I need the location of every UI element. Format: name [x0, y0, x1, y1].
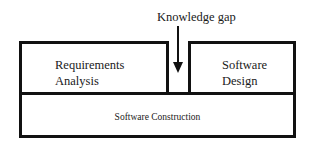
software-design-label: Software Design	[222, 59, 267, 87]
knowledge-gap-label: Knowledge gap	[157, 11, 236, 24]
software-construction-label: Software Construction	[19, 113, 296, 123]
design-line1: Software	[222, 58, 267, 72]
down-arrow-icon	[172, 26, 184, 74]
requirements-line1: Requirements	[55, 58, 124, 72]
requirements-analysis-label: Requirements Analysis	[55, 59, 124, 87]
requirements-line2: Analysis	[55, 75, 124, 88]
design-line2: Design	[222, 75, 267, 88]
